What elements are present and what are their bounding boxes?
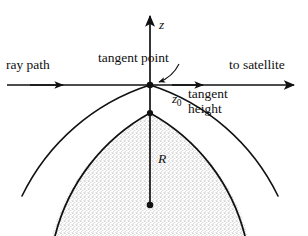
diagram-canvas — [0, 0, 308, 236]
tangent-height-line2: height — [188, 102, 228, 117]
radius-label: R — [158, 152, 166, 167]
tangent-point-leader-arrow — [159, 64, 179, 82]
surface-point-dot — [147, 110, 153, 116]
ray-path-label: ray path — [6, 58, 50, 73]
tangent-height-line1: tangent — [188, 86, 228, 101]
ray-path-geometry-diagram: ray path to satellite tangent point z z0… — [0, 0, 308, 236]
earth-centre-dot — [147, 202, 154, 209]
to-satellite-label: to satellite — [229, 58, 285, 73]
tangent-height-symbol-label: z0 — [172, 92, 181, 108]
tangent-height-label: tangentheight — [188, 87, 228, 116]
tangent-point-dot — [147, 82, 154, 89]
z0-subscript: 0 — [177, 98, 182, 108]
tangent-point-label: tangent point — [98, 51, 169, 66]
z-axis-label: z — [159, 18, 164, 33]
